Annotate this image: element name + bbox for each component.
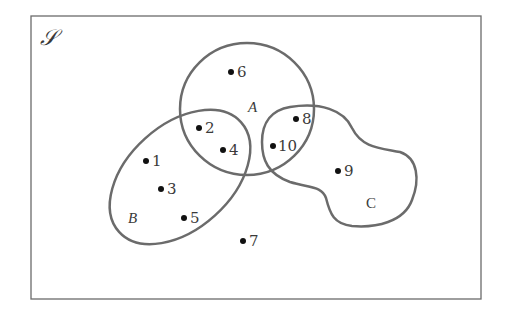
universe-label: 𝒮	[40, 25, 63, 50]
point-6: 6	[228, 63, 247, 81]
point-9: 9	[335, 162, 354, 180]
dot-icon	[335, 168, 341, 174]
point-3: 3	[158, 180, 177, 198]
svg-text:3: 3	[167, 180, 177, 198]
svg-text:7: 7	[249, 232, 259, 250]
point-5: 5	[181, 209, 200, 227]
set-b-label: B	[128, 210, 137, 226]
point-1: 1	[143, 152, 162, 170]
universe-rectangle	[31, 16, 481, 299]
set-c-label: C	[366, 195, 376, 211]
svg-text:1: 1	[152, 152, 162, 170]
point-4: 4	[220, 141, 239, 159]
point-7: 7	[240, 232, 259, 250]
set-a-circle	[180, 43, 314, 175]
dot-icon	[143, 158, 149, 164]
dot-icon	[220, 147, 226, 153]
svg-text:5: 5	[190, 209, 200, 227]
svg-text:9: 9	[344, 162, 354, 180]
dot-icon	[196, 125, 202, 131]
dot-icon	[270, 143, 276, 149]
set-a-label: A	[247, 99, 258, 115]
svg-text:4: 4	[229, 141, 239, 159]
point-10: 10	[270, 137, 297, 155]
point-8: 8	[293, 110, 312, 128]
svg-text:6: 6	[237, 63, 247, 81]
dot-icon	[293, 116, 299, 122]
dot-icon	[181, 215, 187, 221]
dot-icon	[228, 69, 234, 75]
set-c-blob	[262, 106, 416, 227]
point-2: 2	[196, 119, 215, 137]
venn-diagram: 𝒮 A B C 1 2 3 4 5 6 7 8 9	[0, 0, 508, 319]
svg-text:8: 8	[302, 110, 312, 128]
svg-text:10: 10	[278, 137, 297, 155]
dot-icon	[158, 186, 164, 192]
dot-icon	[240, 238, 246, 244]
svg-text:2: 2	[205, 119, 215, 137]
